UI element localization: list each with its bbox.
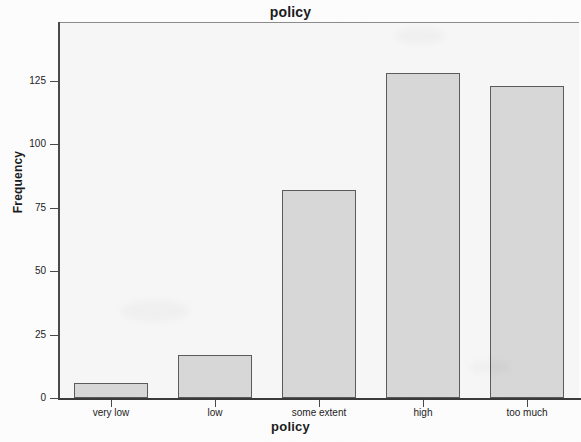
x-tick-label: very low [56, 407, 166, 418]
y-tick-mark [50, 81, 60, 82]
y-tick-mark [50, 398, 60, 399]
bar [386, 73, 460, 398]
y-tick-label: 50 [12, 265, 46, 276]
y-axis-line [58, 22, 60, 400]
x-tick-mark [319, 400, 320, 407]
x-tick-mark [215, 400, 216, 407]
bar-chart-figure: policy Frequency 0255075100125 very lowl… [0, 0, 581, 442]
x-tick-label: low [160, 407, 270, 418]
x-tick-mark [111, 400, 112, 407]
x-tick-mark [423, 400, 424, 407]
x-tick-label: high [368, 407, 478, 418]
x-axis-title: policy [0, 419, 581, 434]
bar [74, 383, 148, 398]
y-tick-mark [50, 144, 60, 145]
bar [282, 190, 356, 398]
y-tick-mark [50, 335, 60, 336]
bar [490, 86, 564, 398]
x-tick-label: some extent [264, 407, 374, 418]
x-tick-mark [527, 400, 528, 407]
y-tick-mark [50, 208, 60, 209]
y-tick-label: 100 [12, 138, 46, 149]
x-tick-label: too much [472, 407, 581, 418]
y-tick-label: 125 [12, 75, 46, 86]
chart-title: policy [0, 4, 581, 20]
y-tick-label: 0 [12, 392, 46, 403]
y-tick-label: 25 [12, 329, 46, 340]
y-tick-label: 75 [12, 202, 46, 213]
y-tick-mark [50, 271, 60, 272]
bar [178, 355, 252, 398]
